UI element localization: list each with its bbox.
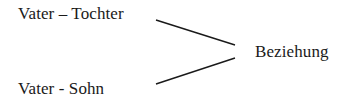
diagram-canvas: Vater – Tochter Vater - Sohn Beziehung	[0, 0, 352, 105]
edge-vater-sohn-beziehung	[156, 58, 235, 84]
node-beziehung: Beziehung	[255, 43, 329, 60]
edge-vater-tochter-beziehung	[156, 20, 235, 45]
node-vater-sohn: Vater - Sohn	[18, 80, 104, 97]
node-vater-tochter: Vater – Tochter	[18, 5, 124, 22]
